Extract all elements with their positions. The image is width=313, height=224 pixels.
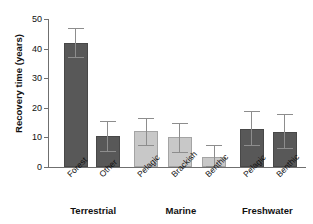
error-bar-line-2 [146, 118, 147, 145]
recovery-time-bar-chart: Recovery time (years) 01020304050 Forest… [0, 0, 313, 224]
y-tick-0 [44, 167, 48, 168]
y-axis-label: Recovery time (years) [13, 14, 24, 154]
error-bar-cap-hi-0 [68, 28, 83, 29]
error-bar-cap-hi-2 [138, 118, 153, 119]
y-tick-40 [44, 49, 48, 50]
y-tick-50 [44, 19, 48, 20]
error-bar-line-0 [75, 28, 76, 58]
bar-forest-0[interactable] [64, 43, 88, 167]
y-tick-10 [44, 137, 48, 138]
cut-off-caption [4, 0, 309, 3]
error-bar-cap-hi-3 [172, 123, 187, 124]
error-bar-line-3 [179, 123, 180, 153]
error-bar-cap-lo-3 [172, 152, 187, 153]
y-tick-label-30: 30 [32, 73, 42, 83]
error-bar-cap-hi-4 [206, 145, 221, 146]
error-bar-cap-hi-6 [277, 114, 292, 115]
error-bar-cap-lo-0 [68, 57, 83, 58]
y-tick-label-50: 50 [32, 14, 42, 24]
error-bar-line-6 [284, 114, 285, 148]
y-axis-line [48, 19, 49, 168]
y-tick-20 [44, 108, 48, 109]
y-tick-label-0: 0 [37, 162, 42, 172]
error-bar-line-5 [251, 111, 252, 145]
error-bar-cap-hi-5 [244, 111, 259, 112]
error-bar-cap-lo-5 [244, 145, 259, 146]
error-bar-line-1 [107, 121, 108, 151]
group-label-marine: Marine [166, 205, 197, 216]
y-tick-label-40: 40 [32, 44, 42, 54]
y-tick-label-20: 20 [32, 103, 42, 113]
error-bar-cap-hi-1 [100, 121, 115, 122]
plot-area: 01020304050 ForestOtherPelagicBrackishBe… [48, 14, 306, 166]
error-bar-cap-lo-6 [277, 148, 292, 149]
group-label-terrestrial: Terrestrial [70, 205, 116, 216]
y-tick-label-10: 10 [32, 132, 42, 142]
group-label-freshwater: Freshwater [242, 205, 293, 216]
y-tick-30 [44, 78, 48, 79]
error-bar-cap-lo-2 [138, 145, 153, 146]
error-bar-cap-lo-1 [100, 151, 115, 152]
